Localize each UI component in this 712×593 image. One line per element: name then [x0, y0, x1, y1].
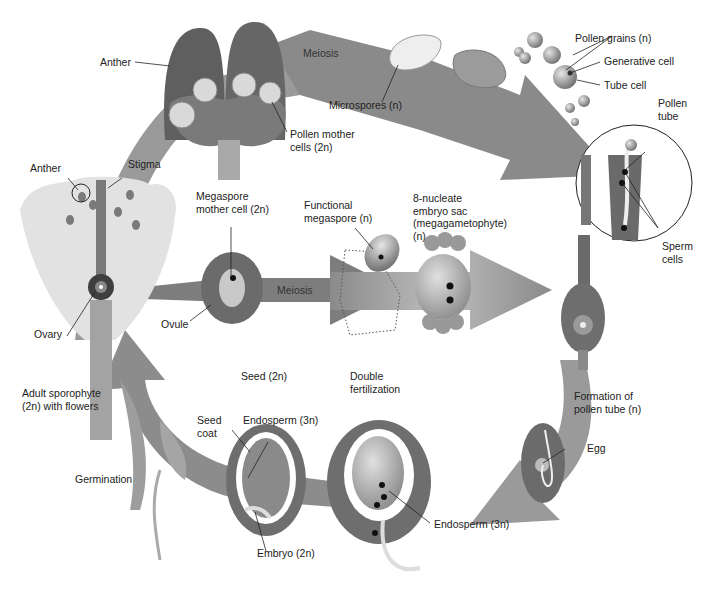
flower-illustration [20, 177, 186, 560]
life-cycle-diagram: Meiosis Meiosis Anther Pollen mother cel… [0, 0, 712, 593]
pistil-right-illustration [561, 235, 605, 370]
label-ovule: Ovule [161, 318, 188, 331]
label-pollen-tube: Pollen tube [658, 97, 687, 122]
label-megaspore-mother-cell: Megaspore mother cell (2n) [196, 190, 269, 215]
label-seed: Seed (2n) [241, 370, 287, 383]
label-ovary: Ovary [34, 328, 62, 341]
label-formation-pollen-tube: Formation of pollen tube (n) [574, 390, 641, 415]
label-pollen-grains: Pollen grains (n) [575, 32, 651, 45]
label-stigma: Stigma [128, 158, 161, 171]
label-embryo-sac: 8-nucleate embryo sac (megagametophyte) … [413, 192, 507, 242]
label-endosperm-seed: Endosperm (3n) [243, 414, 318, 427]
fertilized-ovule-illustration [327, 420, 431, 569]
label-double-fertilization: Double fertilization [350, 370, 400, 395]
anther-illustration [164, 22, 286, 180]
label-embryo: Embryo (2n) [257, 547, 315, 560]
label-anther-flower: Anther [30, 162, 61, 175]
label-anther-top: Anther [100, 56, 131, 69]
label-sperm-cells: Sperm cells [662, 240, 693, 265]
meiosis-label-top: Meiosis [303, 47, 339, 59]
label-pollen-mother-cells: Pollen mother cells (2n) [290, 128, 355, 153]
label-seed-coat: Seed coat [197, 414, 222, 439]
stigma-magnified-circle [576, 125, 692, 241]
label-adult-sporophyte: Adult sporophyte (2n) with flowers [22, 387, 101, 412]
embryo-sac-illustration [415, 232, 471, 334]
label-microspores: Microspores (n) [329, 99, 402, 112]
label-generative-cell: Generative cell [604, 55, 674, 68]
label-egg: Egg [587, 442, 606, 455]
label-endosperm-fertilization: Endosperm (3n) [434, 518, 509, 531]
seed-illustration [226, 424, 306, 536]
ovule-illustration [201, 252, 263, 324]
label-functional-megaspore: Functional megaspore (n) [304, 199, 372, 224]
label-tube-cell: Tube cell [604, 79, 646, 92]
meiosis-label-middle: Meiosis [277, 284, 313, 296]
label-germination: Germination [75, 473, 132, 486]
